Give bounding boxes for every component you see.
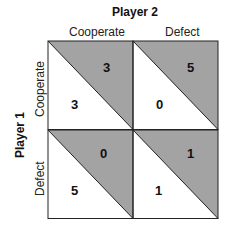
row-label-cooperate: Cooperate: [33, 61, 47, 117]
cell-cooperate-defect: 5 0: [133, 41, 218, 130]
payoff-grid: 3 3 5 0 0 5: [48, 41, 218, 218]
cell-shading: [48, 41, 133, 130]
column-label-defect: Defect: [165, 25, 200, 39]
player1-payoff: 1: [155, 183, 162, 198]
row-label-defect: Defect: [33, 161, 47, 196]
player1-payoff: 0: [156, 97, 163, 112]
player2-payoff: 0: [100, 146, 107, 161]
player2-label: Player 2: [112, 5, 158, 19]
cell-cooperate-cooperate: 3 3: [48, 41, 133, 130]
player2-payoff: 5: [187, 60, 194, 75]
cell-shading: [48, 130, 133, 219]
column-label-cooperate: Cooperate: [69, 25, 125, 39]
player2-payoff: 3: [103, 60, 110, 75]
player1-label: Player 1: [13, 112, 27, 158]
player1-payoff: 5: [71, 183, 78, 198]
player1-payoff: 3: [71, 97, 78, 112]
cell-defect-cooperate: 0 5: [48, 130, 133, 219]
cell-shading: [133, 41, 218, 130]
player2-payoff: 1: [187, 146, 194, 161]
cell-defect-defect: 1 1: [133, 130, 218, 219]
cell-shading: [133, 130, 218, 219]
